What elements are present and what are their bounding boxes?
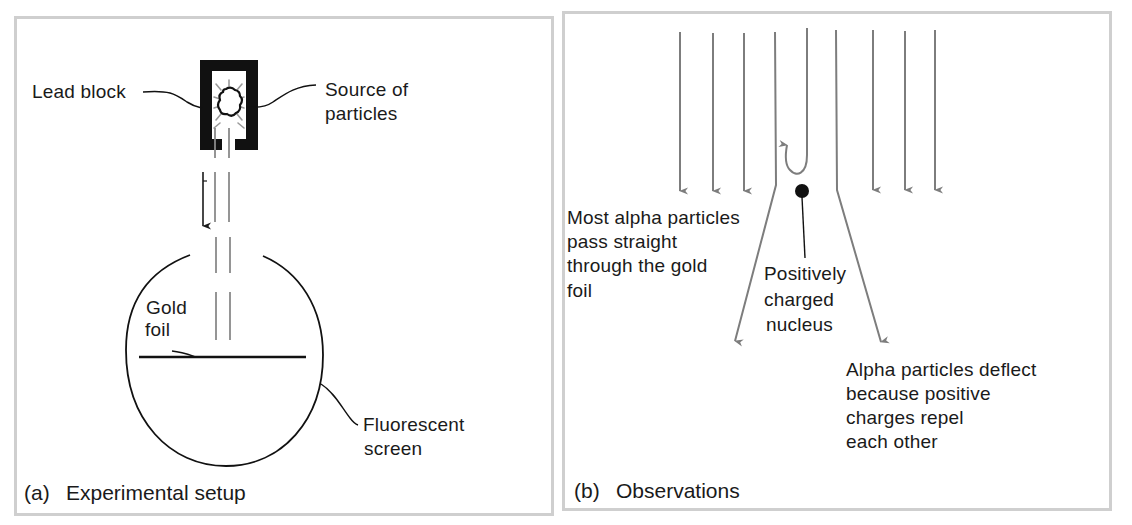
straight-arrows-left — [680, 32, 744, 191]
label-deflect-line4: each other — [846, 430, 938, 454]
label-straight-line2: pass straight — [567, 230, 677, 254]
caption-panel-b: (b)Observations — [574, 478, 740, 504]
particle-beam — [215, 128, 230, 340]
label-gold-line1: Gold — [146, 296, 187, 320]
caption-text-a: Experimental setup — [66, 481, 246, 504]
radioactive-source-icon — [214, 80, 244, 128]
label-nucleus-line1: Positively — [764, 262, 846, 286]
backscattered-arrow — [786, 28, 807, 174]
label-screen-line1: Fluorescent — [363, 413, 464, 437]
label-deflect-line1: Alpha particles deflect — [846, 358, 1036, 382]
label-straight-line3: through the gold — [567, 254, 708, 278]
nucleus-leader — [802, 197, 805, 258]
diagram-canvas — [0, 0, 1132, 525]
direction-arrow-icon — [203, 172, 207, 226]
lead-block-leader — [143, 91, 202, 108]
fluorescent-screen-leader — [321, 384, 358, 425]
straight-arrows-right — [873, 30, 935, 190]
label-nucleus-line2: charged — [764, 288, 834, 312]
caption-tag-b: (b) — [574, 478, 616, 504]
label-deflect-line2: because positive — [846, 382, 991, 406]
fluorescent-screen-circle — [126, 255, 323, 466]
label-screen-line2: screen — [364, 437, 422, 461]
caption-tag-a: (a) — [24, 480, 66, 506]
label-deflect-line3: charges repel — [846, 406, 964, 430]
label-straight-line1: Most alpha particles — [567, 206, 740, 230]
label-nucleus-line3: nucleus — [766, 313, 833, 337]
label-gold-line2: foil — [145, 318, 170, 342]
label-lead-block: Lead block — [32, 80, 126, 104]
label-source-line2: particles — [325, 102, 398, 126]
caption-text-b: Observations — [616, 479, 740, 502]
label-straight-line4: foil — [567, 279, 592, 303]
label-source-line1: Source of — [325, 78, 408, 102]
nucleus-dot — [795, 184, 809, 198]
caption-panel-a: (a)Experimental setup — [24, 480, 246, 506]
